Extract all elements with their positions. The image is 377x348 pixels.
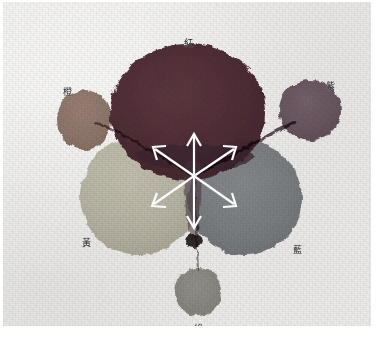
label-red: 紅 [184,38,193,48]
label-blue: 藍 [293,245,302,255]
paper-background: 紅 橙 紫 黃 藍 綠 [3,2,371,326]
blob-green [174,268,222,316]
blob-orange [57,90,111,150]
label-yellow: 黃 [82,238,91,248]
scanned-figure: 紅 橙 紫 黃 藍 綠 [0,0,377,348]
painting-layer [3,2,371,326]
label-green: 綠 [194,324,203,326]
center-hub [185,234,203,248]
label-orange: 橙 [63,87,72,97]
label-purple: 紫 [326,81,335,91]
